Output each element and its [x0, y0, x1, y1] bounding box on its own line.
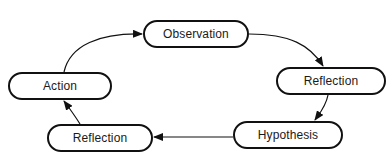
node-reflection-left: Reflection — [47, 124, 153, 152]
edge-reflection-to-action — [64, 101, 80, 124]
node-observation: Observation — [143, 20, 249, 48]
node-hypothesis: Hypothesis — [233, 121, 343, 149]
edge-reflection-to-hypothesis — [315, 95, 328, 120]
node-reflection-right: Reflection — [276, 67, 386, 95]
edge-observation-to-reflection — [249, 34, 323, 66]
edge-action-to-observation — [64, 34, 142, 72]
node-action: Action — [8, 72, 112, 100]
